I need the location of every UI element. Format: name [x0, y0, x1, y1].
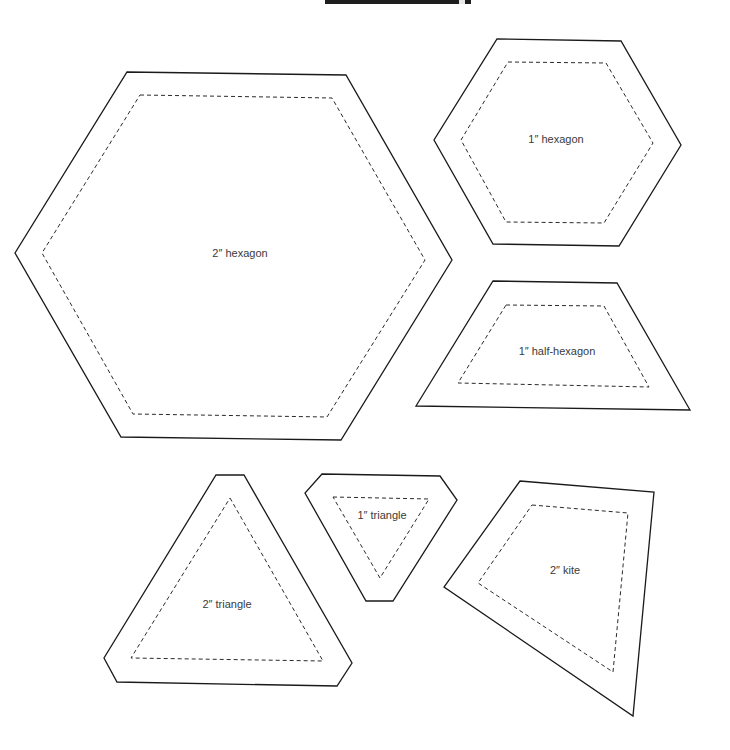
cut-line: [104, 475, 352, 686]
sewing-line: [131, 498, 323, 661]
cut-line: [305, 474, 457, 601]
template-tri1: [305, 474, 457, 601]
template-label-halfhex1: 1″ half-hexagon: [519, 345, 596, 357]
template-label-tri2: 2″ triangle: [202, 598, 251, 610]
template-kite2: [444, 481, 654, 716]
cut-line: [444, 481, 654, 716]
template-label-tri1: 1″ triangle: [357, 509, 406, 521]
sewing-line: [478, 505, 628, 672]
template-label-hex2: 2″ hexagon: [212, 247, 267, 259]
template-label-hex1: 1″ hexagon: [528, 133, 583, 145]
template-label-kite2: 2″ kite: [550, 564, 580, 576]
template-sheet: [0, 0, 730, 750]
template-tri2: [104, 475, 352, 686]
